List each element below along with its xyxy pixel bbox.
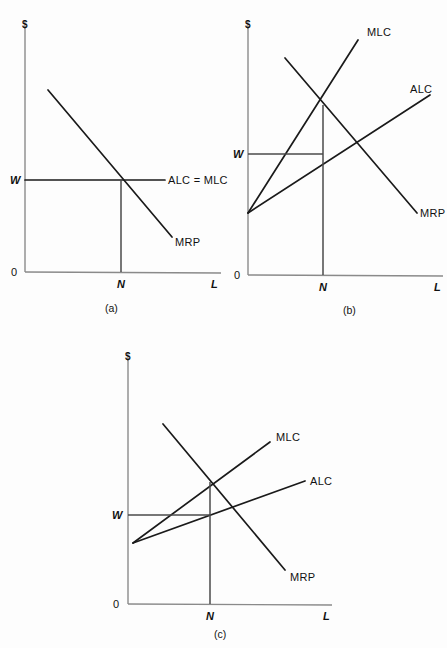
panel-b-chart: $ 0 W N L MLC ALC MRP (b) [230, 0, 447, 330]
panel-b-mlc-curve [248, 40, 358, 213]
panel-c: $ 0 W N L MLC ALC MRP (c) [100, 335, 350, 648]
panel-b-caption: (b) [343, 304, 356, 316]
panel-c-mrp-label: MRP [290, 571, 315, 583]
panel-c-x-axis-label: L [323, 610, 330, 622]
panel-c-y-axis-label: $ [125, 351, 131, 362]
panel-a: $ 0 W N L ALC = MLC MRP (a) [0, 0, 230, 330]
panel-b-x-axis [248, 275, 443, 276]
panel-c-origin-label: 0 [113, 598, 119, 610]
panel-a-mrp-label: MRP [175, 236, 200, 248]
panel-a-chart: $ 0 W N L ALC = MLC MRP (a) [0, 0, 230, 330]
panel-c-mrp-curve [163, 424, 285, 570]
panel-a-x-axis [25, 272, 221, 273]
panel-a-mrp-curve [48, 90, 172, 237]
panel-c-alc-label: ALC [310, 475, 332, 487]
figure-page: $ 0 W N L ALC = MLC MRP (a) $ [0, 0, 447, 648]
panel-c-quantity-label: N [206, 610, 215, 622]
panel-c-x-axis [128, 604, 332, 605]
panel-c-wage-label: W [112, 509, 124, 521]
panel-b-mrp-curve [285, 58, 417, 213]
panel-b-origin-label: 0 [234, 269, 240, 281]
panel-b-alc-label: ALC [410, 83, 432, 95]
panel-b: $ 0 W N L MLC ALC MRP (b) [230, 0, 447, 330]
panel-a-origin-label: 0 [11, 266, 17, 278]
panel-a-wage-label: W [10, 174, 22, 186]
panel-b-x-axis-label: L [434, 281, 441, 293]
panel-a-x-axis-label: L [211, 278, 218, 290]
panel-b-mlc-label: MLC [367, 26, 391, 38]
panel-a-alc-mlc-label: ALC = MLC [168, 174, 228, 186]
panel-b-wage-label: W [233, 148, 245, 160]
panel-c-caption: (c) [214, 628, 226, 640]
panel-b-mrp-label: MRP [420, 207, 445, 219]
panel-b-y-axis-label: $ [245, 19, 251, 30]
panel-a-quantity-label: N [117, 278, 126, 290]
panel-a-caption: (a) [105, 302, 118, 314]
panel-c-chart: $ 0 W N L MLC ALC MRP (c) [100, 335, 350, 648]
panel-a-y-axis-label: $ [22, 19, 28, 30]
panel-b-quantity-label: N [319, 281, 328, 293]
panel-c-mlc-label: MLC [276, 431, 300, 443]
